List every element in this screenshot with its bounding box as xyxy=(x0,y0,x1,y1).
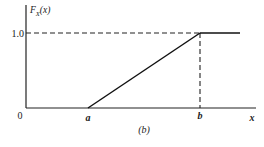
x-tick-b: b xyxy=(198,110,203,121)
cdf-chart: FX(x) 1.0 0 a b x (b) xyxy=(0,0,264,147)
cdf-ramp xyxy=(88,33,200,108)
x-axis-label: x xyxy=(249,112,255,123)
figure-caption: (b) xyxy=(138,124,150,136)
origin-label: 0 xyxy=(18,110,23,121)
y-axis-label: FX(x) xyxy=(29,5,50,17)
y-tick-1.0: 1.0 xyxy=(12,28,25,39)
x-tick-a: a xyxy=(86,112,91,123)
